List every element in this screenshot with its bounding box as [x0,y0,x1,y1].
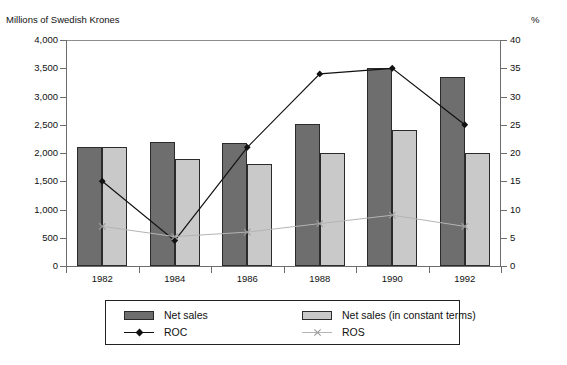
x-axis-tick-label: 1990 [356,274,429,284]
y-axis-left-tick-label: 2,500 [34,120,58,130]
legend-label-ros: ROS [342,326,365,338]
y-axis-left-tick-label: 500 [42,233,58,243]
y-axis-right-tick [501,181,507,182]
x-axis-tick-label: 1982 [66,274,139,284]
y-axis-right-tick [501,238,507,239]
y-axis-right-tick-label: 5 [510,233,515,243]
y-axis-right-tick [501,68,507,69]
x-axis-tick-label: 1986 [211,274,284,284]
y-axis-right-tick-label: 15 [510,176,521,186]
legend-label-net-sales: Net sales [164,309,208,321]
chart-legend: Net sales Net sales (in constant terms) … [105,300,460,345]
x-marker-icon [313,328,322,337]
chart-figure: Millions of Swedish Krones % 05001,0001,… [0,0,567,365]
legend-swatch-roc [124,328,154,337]
y-axis-right-title: % [531,14,539,25]
legend-label-roc: ROC [164,326,187,338]
line-series-roc [102,68,465,240]
y-axis-right-tick-label: 40 [510,35,521,45]
diamond-marker-icon [135,328,144,337]
legend-item-net-sales: Net sales [124,309,208,321]
x-axis-tick [429,267,430,273]
y-axis-right-tick [501,40,507,41]
legend-item-net-sales-constant: Net sales (in constant terms) [302,309,476,321]
y-axis-left-tick-label: 2,000 [34,148,58,158]
legend-item-ros: ROS [302,326,365,338]
y-axis-left-tick-label: 4,000 [34,35,58,45]
x-axis-tick-label: 1988 [284,274,357,284]
legend-swatch-net-sales-constant [302,311,332,320]
x-axis-tick-label: 1984 [139,274,212,284]
y-axis-left-tick-label: 1,500 [34,176,58,186]
y-axis-right-tick [501,125,507,126]
y-axis-left-tick-label: 1,000 [34,205,58,215]
legend-item-roc: ROC [124,326,187,338]
y-axis-right-tick-label: 30 [510,92,521,102]
legend-label-net-sales-constant: Net sales (in constant terms) [342,309,476,321]
x-axis-tick-label: 1992 [429,274,502,284]
plot-area: 05001,0001,5002,0002,5003,0003,5004,000 … [66,40,501,266]
x-axis-tick [211,267,212,273]
y-axis-left-tick-label: 0 [53,261,58,271]
legend-swatch-net-sales [124,311,154,320]
y-axis-right-tick [501,153,507,154]
y-axis-left-title: Millions of Swedish Krones [6,14,120,25]
y-axis-left-tick-label: 3,500 [34,63,58,73]
x-axis-tick [356,267,357,273]
y-axis-right-tick [501,210,507,211]
y-axis-right-tick-label: 0 [510,261,515,271]
y-axis-right-tick [501,97,507,98]
lines-layer [66,40,501,267]
y-axis-right-tick-label: 10 [510,205,521,215]
x-axis-tick [501,267,502,273]
x-axis-tick [139,267,140,273]
x-axis-tick [66,267,67,273]
y-axis-left-tick-label: 3,000 [34,92,58,102]
legend-swatch-ros [302,328,332,337]
x-axis-tick [284,267,285,273]
y-axis-right-tick-label: 25 [510,120,521,130]
y-axis-right-tick-label: 20 [510,148,521,158]
y-axis-right-tick-label: 35 [510,63,521,73]
